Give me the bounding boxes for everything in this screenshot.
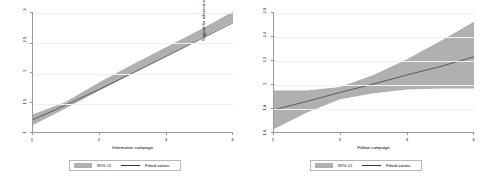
x-tick-label: 2 [93, 137, 105, 142]
gridline [273, 37, 474, 38]
x-axis-title: Informative campaign [32, 145, 233, 150]
y-tick-mark [271, 36, 273, 37]
x-tick-mark [273, 133, 274, 135]
x-axis-title: Follow campaign [273, 145, 474, 150]
y-axis-title: Support for referendum proposals [199, 0, 209, 74]
x-tick-label: 3 [160, 137, 172, 142]
x-tick-mark [32, 133, 33, 135]
y-axis-line [32, 12, 33, 133]
y-tick-label: 2.2 [262, 53, 267, 67]
figure-panel-row: Support for referendum proposals 1 1.5 2… [0, 0, 482, 184]
y-tick-label: 2 [22, 65, 27, 77]
legend-fit-label: Fitted values [386, 163, 410, 168]
x-tick-label: 1 [267, 137, 279, 142]
x-tick-label: 2 [334, 137, 346, 142]
fit-and-ci-plot [273, 12, 474, 133]
plot-area [273, 12, 474, 133]
y-tick-label: 1.6 [262, 126, 267, 140]
chart-panel-follow-campaign: Support for referendum proposals 1.6 1.8… [241, 0, 482, 184]
legend-ci-swatch [315, 163, 333, 168]
gridline [273, 85, 474, 86]
gridline [273, 13, 474, 14]
y-axis-line [273, 12, 274, 133]
y-tick-mark [271, 60, 273, 61]
y-tick-mark [271, 84, 273, 85]
y-tick-label: 2.5 [22, 34, 27, 46]
ci-band [273, 22, 474, 130]
y-tick-label: 2 [262, 77, 267, 91]
legend-ci-swatch [74, 163, 92, 168]
x-axis-line [32, 132, 233, 133]
x-tick-label: 3 [401, 137, 413, 142]
y-tick-label: 2.6 [262, 4, 267, 18]
y-tick-label: 1.8 [262, 101, 267, 115]
x-tick-mark [166, 133, 167, 135]
legend: 95% CI Fitted values [310, 160, 422, 171]
y-tick-label: 1.5 [22, 96, 27, 108]
x-tick-mark [473, 133, 474, 135]
gridline [273, 109, 474, 110]
legend-fit-line [362, 165, 381, 166]
legend-fit-label: Fitted values [145, 163, 169, 168]
gridline [32, 104, 233, 105]
gridline [273, 61, 474, 62]
x-tick-label: 1 [26, 137, 38, 142]
x-tick-label: 4 [226, 137, 238, 142]
x-tick-label: 4 [467, 137, 479, 142]
y-tick-label: 3 [22, 4, 27, 16]
legend-ci-label: 95% CI [338, 163, 352, 168]
y-tick-mark [30, 43, 32, 44]
x-tick-mark [232, 133, 233, 135]
x-tick-mark [407, 133, 408, 135]
y-tick-mark [30, 12, 32, 13]
y-tick-label: 2.4 [262, 28, 267, 42]
x-axis-line [273, 132, 474, 133]
y-tick-mark [30, 102, 32, 103]
x-tick-mark [340, 133, 341, 135]
legend-fit-line [121, 165, 140, 166]
y-tick-mark [271, 108, 273, 109]
y-tick-mark [30, 72, 32, 73]
legend-ci-label: 95% CI [97, 163, 111, 168]
legend: 95% CI Fitted values [69, 160, 181, 171]
x-tick-mark [99, 133, 100, 135]
y-tick-mark [271, 12, 273, 13]
